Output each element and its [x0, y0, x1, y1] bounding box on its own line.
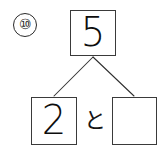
addend-left-box[interactable]: 2 — [31, 97, 77, 145]
problem-number-label: ⑩ — [19, 18, 31, 32]
conjunction-label: と — [82, 104, 108, 138]
connector-line-left — [54, 57, 93, 96]
addend-right-box[interactable] — [112, 97, 157, 145]
sum-box[interactable]: 5 — [70, 10, 116, 56]
sum-value: 5 — [81, 12, 106, 53]
worksheet-canvas: ⑩ 5 2 と — [0, 0, 166, 161]
conjunction-text: と — [84, 110, 106, 132]
connector-line-right — [93, 57, 134, 96]
problem-number-badge: ⑩ — [13, 13, 37, 37]
addend-left-value: 2 — [42, 100, 67, 141]
